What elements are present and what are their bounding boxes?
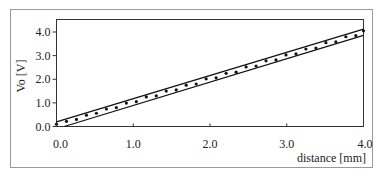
data-point <box>274 58 277 61</box>
y-tick-label: 2.0 <box>36 72 51 86</box>
data-point <box>304 47 307 50</box>
x-tick-label: 3.0 <box>279 137 294 151</box>
x-tick-label: 4.0 <box>358 137 373 151</box>
data-point <box>185 84 188 87</box>
data-point <box>344 35 347 38</box>
data-point <box>115 106 118 109</box>
data-point <box>205 77 208 80</box>
data-point <box>294 52 297 55</box>
data-point <box>244 65 247 68</box>
data-point <box>334 40 337 43</box>
data-point <box>65 120 68 123</box>
data-point <box>165 89 168 92</box>
data-point <box>254 64 257 67</box>
data-point <box>324 41 327 44</box>
data-point <box>75 118 78 121</box>
data-point <box>264 59 267 62</box>
data-point <box>125 102 128 105</box>
data-point <box>95 112 98 115</box>
data-point <box>85 114 88 117</box>
data-point <box>145 95 148 98</box>
data-point <box>234 71 237 74</box>
data-point <box>362 29 365 32</box>
data-point <box>215 76 218 79</box>
x-axis-label: distance [mm] <box>297 151 366 165</box>
y-tick-label: 4.0 <box>36 25 51 39</box>
y-tick-label: 1.0 <box>36 96 51 110</box>
data-point <box>105 107 108 110</box>
data-point <box>225 72 228 75</box>
chart: 0.01.02.03.04.0 0.01.02.03.04.0 distance… <box>0 0 383 175</box>
data-point <box>135 100 138 103</box>
data-point <box>284 53 287 56</box>
data-point <box>175 88 178 91</box>
plot-area <box>57 20 364 127</box>
y-axis-label: Vo [V] <box>14 60 28 93</box>
data-point <box>314 46 317 49</box>
y-tick-label: 0.0 <box>36 120 51 134</box>
y-tick-label: 3.0 <box>36 49 51 63</box>
x-tick-label: 1.0 <box>126 137 141 151</box>
data-point <box>354 34 357 37</box>
x-tick-label: 0.0 <box>53 137 68 151</box>
x-tick-label: 2.0 <box>203 137 218 151</box>
data-point <box>195 82 198 85</box>
data-point <box>155 94 158 97</box>
